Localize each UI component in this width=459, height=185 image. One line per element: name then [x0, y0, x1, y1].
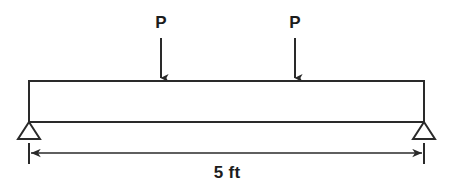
left-pin-support-icon	[18, 122, 40, 139]
beam-diagram-canvas	[0, 0, 459, 185]
beam-outline	[29, 81, 424, 122]
right-pin-support-icon	[413, 122, 435, 139]
load-label-right: P	[289, 14, 301, 31]
load-label-left: P	[155, 14, 167, 31]
beam-diagram: P P 5 ft	[0, 0, 459, 185]
span-dimension-label: 5 ft	[214, 164, 241, 181]
